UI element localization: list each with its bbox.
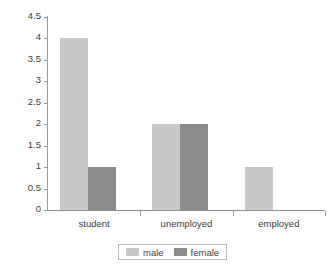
x-axis-label-employed: employed [233,218,325,230]
y-axis-tick-label: 0.5 [28,182,41,193]
y-axis-tick-label: 3 [36,74,41,85]
bar-employed-male [245,167,273,210]
y-axis-tick-label: 0 [36,203,41,214]
plot-area [48,17,325,210]
x-axis-separator [233,211,234,216]
x-axis-separator [140,211,141,216]
y-axis-tick-label: 2.5 [28,96,41,107]
bar-student-female [88,167,116,210]
y-axis-tick-label: 4.5 [28,10,41,21]
y-axis-tick-label: 3.5 [28,53,41,64]
x-axis-label-unemployed: unemployed [140,218,232,230]
bar-chart: 4.543.532.521.510.50 studentunemployedem… [0,0,335,270]
y-axis-tick-label: 1 [36,160,41,171]
legend-label-female: female [191,247,220,258]
bar-unemployed-male [152,124,180,210]
x-axis-end-tick [325,211,326,216]
x-axis-line [48,210,325,211]
legend-entry-male: male [126,247,164,258]
chart-legend: malefemale [118,244,227,260]
y-axis-tick-label: 4 [36,31,41,42]
legend-swatch-male [126,248,139,256]
y-axis-tick-label: 2 [36,117,41,128]
bar-unemployed-female [180,124,208,210]
y-axis-tick-mark [44,210,48,211]
legend-swatch-female [174,248,187,256]
y-axis-tick-label: 1.5 [28,139,41,150]
x-axis-label-student: student [48,218,140,230]
bar-student-male [60,38,88,210]
legend-entry-female: female [174,247,220,258]
legend-label-male: male [143,247,164,258]
